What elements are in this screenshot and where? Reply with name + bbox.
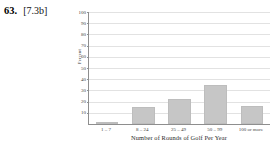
plot-area	[88, 12, 270, 125]
x-axis-tick-label: 25 – 49	[160, 126, 196, 133]
problem-reference: [7.3b]	[23, 5, 47, 16]
bar	[132, 107, 154, 124]
x-axis-tick-label: 1 – 7	[88, 126, 124, 133]
y-axis-tick-label: 60	[66, 54, 86, 59]
x-axis-tick-label: 100 or more	[233, 126, 269, 133]
y-axis-tick-label: 80	[66, 32, 86, 37]
x-axis-tick-label: 50 – 99	[197, 126, 233, 133]
y-axis-tick-label: 40	[66, 77, 86, 82]
y-axis-tick-label: 100	[66, 10, 86, 15]
bar	[96, 122, 118, 124]
problem-number: 63.	[4, 5, 17, 16]
x-axis-tick-label: 8 – 24	[124, 126, 160, 133]
y-axis-tick-label: 30	[66, 88, 86, 93]
y-axis-tick-label: 90	[66, 21, 86, 26]
y-axis-tick-label: 50	[66, 66, 86, 71]
y-axis-tick-label: 20	[66, 99, 86, 104]
figure-page: 63. [7.3b] Percent 102030405060708090100…	[0, 0, 276, 146]
bar-chart: Percent 102030405060708090100 1 – 78 – 2…	[60, 8, 274, 146]
bar-series	[89, 12, 270, 124]
y-axis-tick-labels: 102030405060708090100	[66, 8, 86, 125]
bar	[204, 85, 226, 124]
problem-label: 63. [7.3b]	[4, 5, 47, 16]
bar	[241, 106, 263, 124]
y-axis-tick-label: 10	[66, 110, 86, 115]
bar	[168, 99, 190, 124]
x-axis-title: Number of Rounds of Golf Per Year	[88, 134, 270, 141]
y-axis-tick-label: 70	[66, 43, 86, 48]
